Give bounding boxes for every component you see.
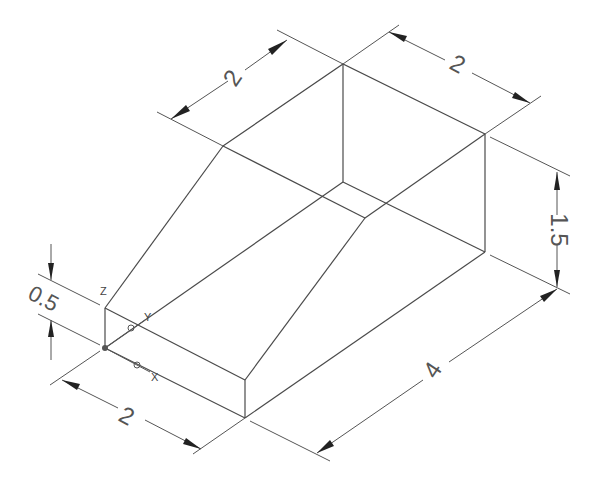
edge-right-top-to-inner	[365, 134, 485, 218]
ext-line	[38, 314, 100, 345]
ext-line	[490, 137, 570, 176]
ext-line	[250, 421, 330, 461]
ucs-x-label: X	[151, 372, 158, 383]
isometric-drawing	[0, 0, 605, 483]
arrow-icon	[48, 263, 54, 280]
arrow-icon	[183, 438, 201, 449]
dim-line-base-4	[449, 289, 557, 362]
arrow-icon	[62, 380, 80, 390]
arrow-icon	[554, 172, 560, 190]
edge-base-right	[245, 252, 485, 418]
arrow-icon	[317, 440, 334, 453]
edge-back-top	[223, 64, 485, 146]
ext-line	[277, 30, 343, 64]
dimension-lines	[48, 32, 560, 453]
ucs-origin-icon	[102, 345, 108, 351]
edge-front-top	[105, 308, 245, 380]
ucs-y-label: Y	[144, 312, 151, 323]
arrow-icon	[48, 320, 54, 337]
ext-line	[50, 351, 100, 385]
dim-line-base-4	[317, 380, 423, 453]
arrow-icon	[389, 32, 407, 42]
ucs-y-axis	[105, 320, 145, 348]
dim-label-right-height: 1.5	[547, 213, 571, 246]
ext-line	[343, 25, 399, 64]
edge-ramp-right	[245, 218, 365, 380]
ucs-x-axis	[105, 348, 150, 372]
edge-ramp-left	[105, 146, 223, 308]
arrow-icon	[540, 289, 557, 302]
ext-line	[157, 112, 223, 146]
arrow-icon	[554, 270, 560, 287]
ucs-z-label: Z	[100, 286, 107, 297]
arrow-icon	[171, 105, 190, 119]
ext-line	[485, 96, 541, 134]
arrow-icon	[512, 92, 530, 103]
arrow-icon	[268, 40, 287, 55]
